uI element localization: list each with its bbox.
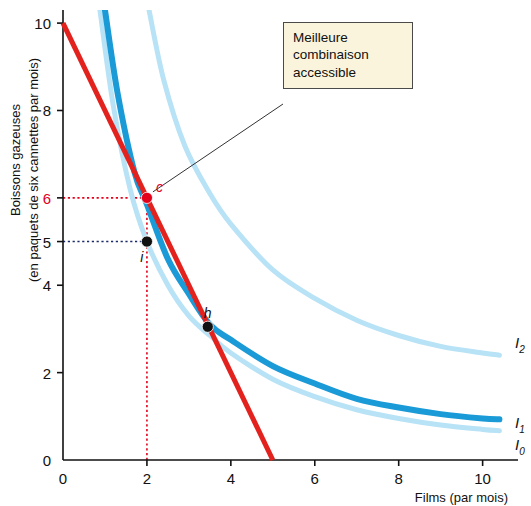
indifference-curve-chart: 245681002468100I2I1I0cihFilms (par mois)… (0, 0, 531, 506)
data-point-label-c: c (156, 179, 163, 195)
plot-area: 245681002468100I2I1I0cihFilms (par mois)… (8, 10, 525, 505)
x-tick-label: 0 (59, 470, 67, 487)
y-tick-label: 5 (43, 234, 51, 251)
y-tick-label: 6 (43, 190, 51, 207)
x-tick-label: 10 (474, 470, 491, 487)
y-tick-label: 2 (43, 365, 51, 382)
y-tick-label: 4 (43, 277, 51, 294)
x-tick-label: 4 (227, 470, 235, 487)
data-point-c (141, 192, 152, 203)
curve-label-I0: I0 (515, 436, 525, 457)
origin-label: 0 (43, 452, 51, 469)
y-axis-title-line1: Boissons gazeuses (8, 103, 23, 216)
callout-annotation: Meilleure combinaison accessible (283, 22, 413, 89)
data-point-label-i: i (140, 249, 144, 265)
callout-line-3: accessible (293, 64, 404, 81)
y-tick-label: 8 (43, 102, 51, 119)
y-tick-label: 10 (34, 15, 51, 32)
curve-label-I2: I2 (515, 334, 525, 355)
callout-line-2: combinaison (293, 46, 404, 63)
data-point-h (202, 321, 213, 332)
callout-line-1: Meilleure (293, 29, 404, 46)
data-point-i (141, 236, 152, 247)
x-axis-title: Films (par mois) (415, 490, 508, 505)
data-point-label-h: h (204, 305, 212, 321)
x-tick-label: 8 (395, 470, 403, 487)
x-tick-label: 6 (311, 470, 319, 487)
y-axis-title-line2: (en paquets de six cannettes par mois) (26, 58, 41, 282)
curve-label-I1: I1 (515, 414, 525, 435)
x-tick-label: 2 (143, 470, 151, 487)
chart-container: 245681002468100I2I1I0cihFilms (par mois)… (0, 0, 531, 506)
